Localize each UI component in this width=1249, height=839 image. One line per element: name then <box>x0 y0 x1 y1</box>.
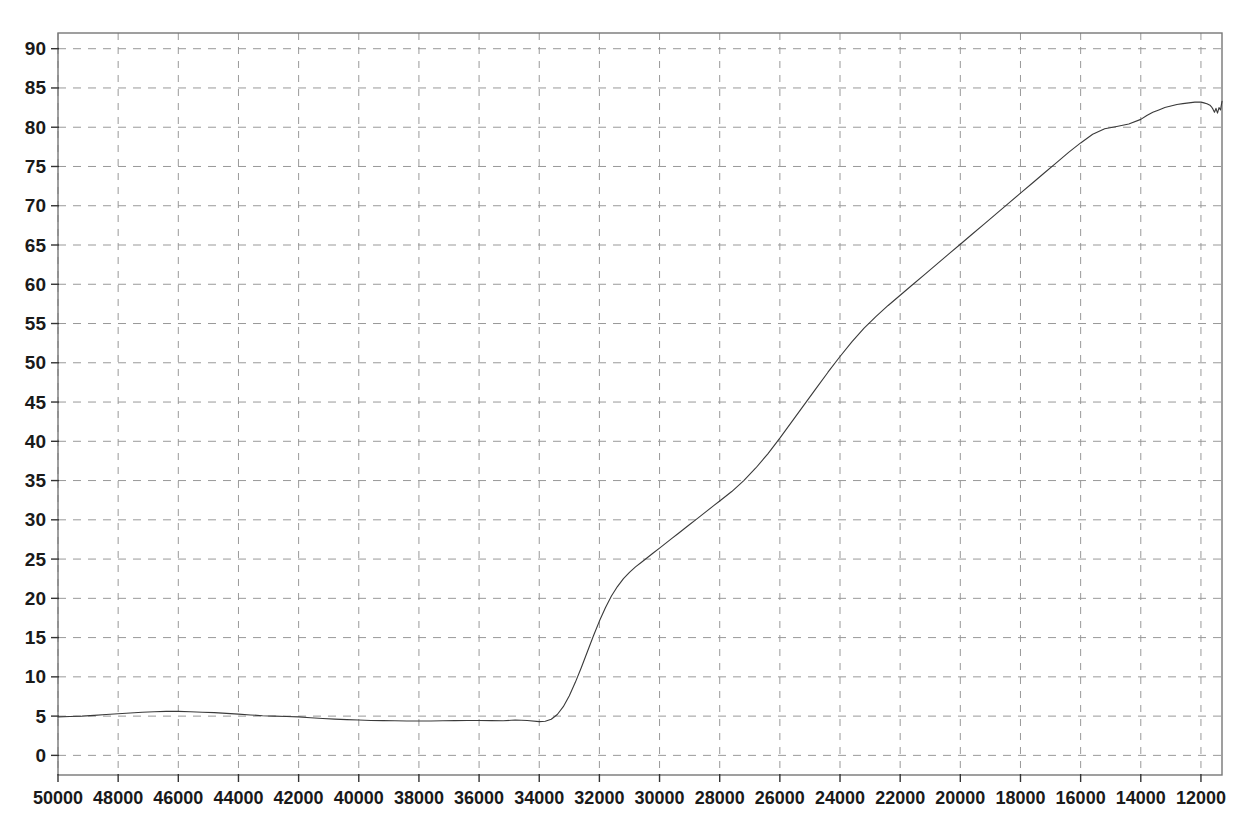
grid-layer <box>58 33 1222 775</box>
x-axis-tick-label: 24000 <box>815 788 865 808</box>
y-axis-tick-label: 40 <box>25 431 46 452</box>
x-axis-tick-label: 32000 <box>574 788 624 808</box>
y-axis-tick-label: 25 <box>25 549 47 570</box>
x-axis-tick-label: 14000 <box>1116 788 1166 808</box>
y-axis-tick-label: 5 <box>35 706 46 727</box>
plot-frame <box>58 33 1222 775</box>
y-axis-tick-label: 45 <box>25 392 47 413</box>
y-axis-tick-label: 85 <box>25 77 47 98</box>
x-axis-tick-label: 44000 <box>213 788 263 808</box>
x-axis-tick-label: 38000 <box>394 788 444 808</box>
y-axis-tick-label: 50 <box>25 352 46 373</box>
y-axis-tick-label: 90 <box>25 38 46 59</box>
x-axis-tick-label: 40000 <box>334 788 384 808</box>
tick-layer <box>51 49 1201 782</box>
x-axis-tick-label: 34000 <box>514 788 564 808</box>
chart-container: 0510152025303540455055606570758085905000… <box>0 0 1249 839</box>
y-axis-tick-label: 10 <box>25 666 46 687</box>
data-series-line <box>58 101 1222 721</box>
y-axis-tick-label: 70 <box>25 195 46 216</box>
y-axis-tick-label: 65 <box>25 235 47 256</box>
y-axis-tick-label: 55 <box>25 313 47 334</box>
x-axis-tick-label: 22000 <box>875 788 925 808</box>
line-chart-plot: 0510152025303540455055606570758085905000… <box>0 0 1249 839</box>
x-axis-tick-label: 46000 <box>153 788 203 808</box>
x-axis-tick-label: 42000 <box>274 788 324 808</box>
x-axis-tick-label: 48000 <box>93 788 143 808</box>
y-axis-tick-label: 75 <box>25 156 47 177</box>
y-axis-tick-label: 15 <box>25 627 47 648</box>
frame-layer <box>58 33 1222 775</box>
x-axis-tick-label: 50000 <box>33 788 83 808</box>
y-axis-tick-label: 30 <box>25 509 46 530</box>
x-axis-tick-label: 36000 <box>454 788 504 808</box>
y-axis-tick-label: 35 <box>25 470 47 491</box>
x-axis-tick-label: 28000 <box>695 788 745 808</box>
y-axis-tick-label: 0 <box>35 745 46 766</box>
y-axis-tick-label: 20 <box>25 588 46 609</box>
x-axis-tick-label: 16000 <box>1056 788 1106 808</box>
y-axis-tick-label: 60 <box>25 274 46 295</box>
y-axis-tick-label: 80 <box>25 117 46 138</box>
x-axis-tick-label: 18000 <box>995 788 1045 808</box>
x-axis-tick-label: 30000 <box>635 788 685 808</box>
x-axis-tick-label: 12000 <box>1176 788 1226 808</box>
series-layer <box>58 101 1222 721</box>
x-axis-tick-label: 20000 <box>935 788 985 808</box>
tick-label-layer: 0510152025303540455055606570758085905000… <box>25 38 1226 808</box>
x-axis-tick-label: 26000 <box>755 788 805 808</box>
